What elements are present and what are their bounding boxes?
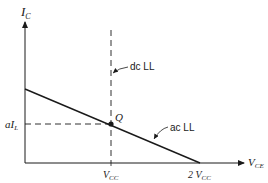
q-point-label: Q [115,111,123,123]
x-axis-label: VCE [248,156,264,170]
two-vcc-label: 2 VCC [188,169,211,182]
ac-ll-label: ac LL [170,122,195,133]
ac-ll-leader-arrow [154,127,168,139]
dc-ll-leader-arrow [113,67,128,73]
q-point-marker [108,121,113,126]
vcc-label: VCC [103,169,119,182]
dc-ll-label: dc LL [130,61,155,72]
current-level-label: aIL [5,118,18,132]
y-axis-label: IC [20,4,31,21]
load-line-diagram: IC VCE aIL Q dc LL ac LL VCC 2 VCC [0,0,268,183]
